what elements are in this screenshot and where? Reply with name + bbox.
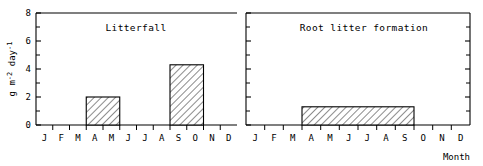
month-label-nov: N xyxy=(209,133,214,143)
bar-litterfall-sep-oct xyxy=(170,65,204,125)
month-label-r-jun: J xyxy=(346,133,351,143)
y-axis-title-sup1: -2 xyxy=(6,72,14,80)
month-label-r-nov: N xyxy=(439,133,444,143)
month-label-r-dec: D xyxy=(458,133,463,143)
y-axis-title-base2: day xyxy=(7,49,17,71)
ytick-label-6: 6 xyxy=(26,36,31,46)
month-label-r-jul: J xyxy=(365,133,370,143)
month-label-r-jan: J xyxy=(253,133,258,143)
month-label-jun: J xyxy=(125,133,130,143)
month-label-jul: J xyxy=(142,133,147,143)
chart-figure: 0 2 4 6 8 g m-2 day-1 xyxy=(0,0,483,166)
ytick-label-0: 0 xyxy=(26,120,31,130)
month-label-sep: S xyxy=(176,133,181,143)
month-label-r-mar: M xyxy=(290,133,296,143)
month-label-dec: D xyxy=(226,133,231,143)
chart-svg: 0 2 4 6 8 g m-2 day-1 xyxy=(0,0,483,166)
month-label-mar: M xyxy=(75,133,81,143)
bar-litterfall-apr-may xyxy=(86,97,120,125)
month-label-feb: F xyxy=(58,133,63,143)
panel-title-litterfall: Litterfall xyxy=(105,22,166,33)
month-label-r-sep: S xyxy=(402,133,407,143)
month-label-jan: J xyxy=(42,133,47,143)
y-axis-title-base1: g m xyxy=(7,80,17,96)
panel-title-root-litter: Root litter formation xyxy=(300,22,429,33)
month-label-oct: O xyxy=(192,133,197,143)
ytick-label-4: 4 xyxy=(26,64,31,74)
ytick-label-8: 8 xyxy=(26,8,31,18)
month-label-r-oct: O xyxy=(421,133,426,143)
month-label-may: M xyxy=(109,133,115,143)
y-axis-title-sup2: -1 xyxy=(6,42,14,50)
month-label-r-apr: A xyxy=(309,133,315,143)
month-label-r-may: M xyxy=(327,133,333,143)
bar-root-litter-apr-oct xyxy=(302,107,414,125)
x-axis-title: Month xyxy=(443,152,470,162)
ytick-label-2: 2 xyxy=(26,92,31,102)
month-label-aug: A xyxy=(159,133,165,143)
month-label-apr: A xyxy=(92,133,98,143)
month-label-r-aug: A xyxy=(383,133,389,143)
month-label-r-feb: F xyxy=(271,133,276,143)
